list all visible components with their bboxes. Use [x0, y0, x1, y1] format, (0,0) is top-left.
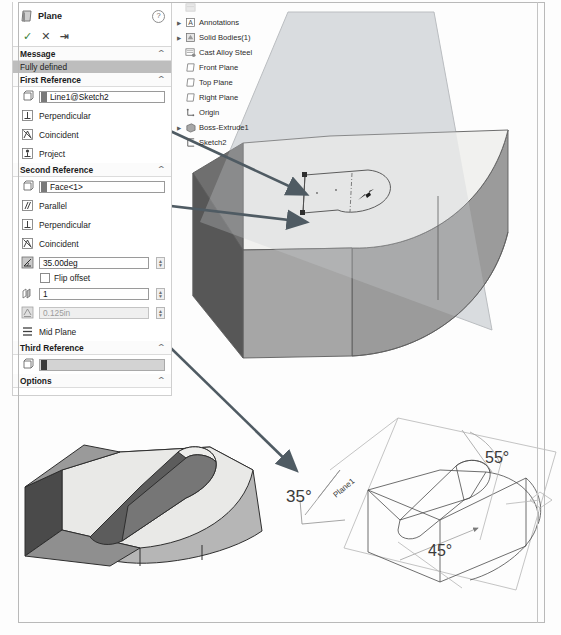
selection-color-swatch: [41, 360, 47, 370]
annotations-icon: A: [185, 17, 196, 28]
first-reference-selection-row: Line1@Sketch2: [13, 87, 171, 106]
chevron-up-icon[interactable]: ⌃: [157, 165, 167, 174]
extrude-icon: [185, 122, 196, 133]
sketch-drawing-graphic: [300, 418, 556, 590]
tree-item-cut-list[interactable]: [176, 0, 296, 15]
cancel-button[interactable]: ✕: [41, 31, 50, 42]
cut-list-icon: [185, 2, 196, 13]
section-header-options[interactable]: Options ⌃: [13, 374, 171, 388]
tree-item-label: Solid Bodies(1): [199, 33, 251, 42]
solid-bodies-icon: [185, 32, 196, 43]
plane-property-manager: Plane ? ✓ ✕ ⇥ Message ⌃ Fully defined Fi…: [12, 2, 172, 396]
tree-item-top-plane[interactable]: Top Plane: [176, 75, 296, 90]
third-reference-input[interactable]: [39, 359, 165, 371]
constraint-label: Parallel: [39, 201, 67, 211]
project-icon: [21, 147, 34, 160]
count-input[interactable]: 1: [39, 288, 149, 300]
offset-distance-icon: [21, 306, 34, 319]
angle-value: 35.00deg: [40, 258, 78, 268]
mid-plane-row[interactable]: Mid Plane: [13, 322, 171, 341]
tree-item-label: Origin: [199, 108, 219, 117]
second-reference-value: Face<1>: [50, 182, 83, 192]
expand-arrow-icon[interactable]: ▶: [176, 20, 182, 26]
tree-item-solid-bodies[interactable]: ▶ Solid Bodies(1): [176, 30, 296, 45]
constraint-project-1[interactable]: Project: [13, 144, 171, 163]
flip-offset-checkbox[interactable]: [40, 273, 50, 283]
tree-item-label: Front Plane: [199, 63, 238, 72]
sketch-icon: [185, 137, 196, 148]
constraint-label: Project: [39, 149, 65, 159]
section-label: First Reference: [20, 75, 81, 85]
coincident-icon: [21, 128, 34, 141]
angle-icon: [21, 256, 34, 269]
annotation-plane1: Plane1: [332, 476, 357, 499]
offset-distance-input[interactable]: 0.125in: [39, 307, 149, 319]
svg-text:A: A: [188, 19, 193, 26]
annotation-45: 45°: [428, 542, 452, 559]
tree-item-label: Right Plane: [199, 93, 238, 102]
expand-arrow-icon[interactable]: ▶: [176, 35, 182, 41]
status-message: Fully defined: [13, 61, 171, 73]
tree-item-label: Boss-Extrude1: [199, 123, 249, 132]
constraint-coincident-1[interactable]: Coincident: [13, 125, 171, 144]
expand-arrow-icon[interactable]: ▶: [176, 125, 182, 131]
angle-row: 35.00deg ▲▼: [13, 253, 171, 272]
page-canvas: 35° 55° 45° Plane1 ▶ A Annotations ▶ Sol…: [0, 0, 561, 635]
tree-item-label: Annotations: [199, 18, 239, 27]
feature-tree[interactable]: ▶ A Annotations ▶ Solid Bodies(1) Cast A…: [176, 0, 296, 150]
tree-item-front-plane[interactable]: Front Plane: [176, 60, 296, 75]
angle-stepper[interactable]: ▲▼: [156, 257, 165, 269]
tree-item-origin[interactable]: Origin: [176, 105, 296, 120]
accept-button[interactable]: ✓: [23, 31, 32, 42]
offset-distance-row: 0.125in ▲▼: [13, 303, 171, 322]
reference-entity-icon: [21, 358, 34, 371]
section-label: Second Reference: [20, 165, 93, 175]
chevron-up-icon[interactable]: ⌃: [157, 376, 167, 385]
reference-entity-icon: [21, 90, 34, 103]
plane-icon: [185, 92, 196, 103]
mid-plane-label: Mid Plane: [39, 327, 76, 337]
second-reference-input[interactable]: Face<1>: [39, 181, 165, 193]
first-reference-input[interactable]: Line1@Sketch2: [39, 91, 165, 103]
origin-icon: [185, 107, 196, 118]
section-label: Message: [20, 49, 55, 59]
constraint-label: Coincident: [39, 130, 79, 140]
chevron-up-icon[interactable]: ⌃: [157, 49, 167, 58]
constraint-perpendicular-2[interactable]: Perpendicular: [13, 215, 171, 234]
offset-distance-value: 0.125in: [40, 308, 70, 318]
section-header-third-reference[interactable]: Third Reference ⌃: [13, 341, 171, 355]
sketch-profile-graphic: [300, 170, 390, 215]
chevron-up-icon[interactable]: ⌃: [157, 75, 167, 84]
tree-item-annotations[interactable]: ▶ A Annotations: [176, 15, 296, 30]
flip-offset-row[interactable]: Flip offset: [13, 272, 171, 284]
constraint-perpendicular-1[interactable]: Perpendicular: [13, 106, 171, 125]
constraint-coincident-2[interactable]: Coincident: [13, 234, 171, 253]
tree-item-boss-extrude1[interactable]: ▶ Boss-Extrude1: [176, 120, 296, 135]
section-header-message[interactable]: Message ⌃: [13, 47, 171, 61]
offset-distance-stepper[interactable]: ▲▼: [156, 307, 165, 319]
tree-item-sketch2[interactable]: Sketch2: [176, 135, 296, 150]
tree-item-right-plane[interactable]: Right Plane: [176, 90, 296, 105]
section-header-first-reference[interactable]: First Reference ⌃: [13, 73, 171, 87]
pin-button[interactable]: ⇥: [59, 31, 67, 42]
constraint-label: Perpendicular: [39, 220, 91, 230]
help-icon[interactable]: ?: [152, 10, 165, 23]
coincident-icon: [21, 237, 34, 250]
tree-item-label: Top Plane: [199, 78, 233, 87]
first-reference-value: Line1@Sketch2: [50, 92, 109, 102]
selection-color-swatch: [41, 182, 47, 192]
count-value: 1: [40, 289, 48, 299]
reference-entity-icon: [21, 180, 34, 193]
material-icon: [185, 47, 196, 58]
panel-header: Plane ?: [13, 2, 171, 26]
count-stepper[interactable]: ▲▼: [156, 288, 165, 300]
third-reference-selection-row: [13, 355, 171, 374]
perpendicular-icon: [21, 218, 34, 231]
tree-item-material[interactable]: Cast Alloy Steel: [176, 45, 296, 60]
count-row: 1 ▲▼: [13, 284, 171, 303]
chevron-up-icon[interactable]: ⌃: [157, 343, 167, 352]
constraint-parallel-2[interactable]: Parallel: [13, 196, 171, 215]
section-header-second-reference[interactable]: Second Reference ⌃: [13, 163, 171, 177]
angle-input[interactable]: 35.00deg: [39, 257, 149, 269]
tree-item-label: Cast Alloy Steel: [199, 48, 252, 57]
